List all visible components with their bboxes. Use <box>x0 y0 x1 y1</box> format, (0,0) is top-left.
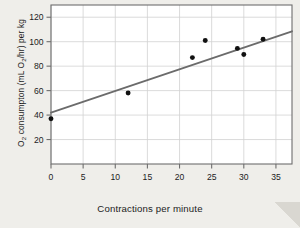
data-point <box>190 55 195 60</box>
page-corner-fold <box>274 202 300 228</box>
data-point <box>203 38 208 43</box>
data-point <box>49 116 54 121</box>
x-tick-label: 0 <box>49 172 54 182</box>
scatter-plot: 0510152025303520406080100120 <box>0 0 300 228</box>
y-tick-label: 80 <box>34 61 44 71</box>
x-tick-label: 20 <box>175 172 185 182</box>
x-tick-label: 25 <box>207 172 217 182</box>
y-tick-label: 20 <box>34 135 44 145</box>
x-tick-label: 5 <box>81 172 86 182</box>
plot-area-background <box>51 5 292 164</box>
x-tick-label: 10 <box>110 172 120 182</box>
y-tick-label: 120 <box>29 12 44 22</box>
x-tick-label: 35 <box>271 172 281 182</box>
data-point <box>235 46 240 51</box>
x-axis-title: Contractions per minute <box>0 203 300 214</box>
data-point <box>126 91 131 96</box>
x-tick-label: 30 <box>239 172 249 182</box>
data-point <box>261 37 266 42</box>
data-point <box>241 52 246 57</box>
y-tick-label: 100 <box>29 37 44 47</box>
y-tick-label: 40 <box>34 110 44 120</box>
chart-figure: O2 consumpton (mL O2/hr) per kg 05101520… <box>0 0 300 228</box>
x-tick-label: 15 <box>143 172 153 182</box>
y-tick-label: 60 <box>34 86 44 96</box>
